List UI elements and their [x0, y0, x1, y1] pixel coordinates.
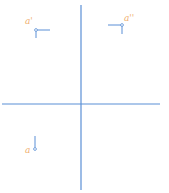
top-view-point: a [25, 136, 36, 155]
side-view-point: a'' [108, 13, 134, 34]
label-a: a [25, 145, 30, 155]
label-a-double-prime: a'' [124, 13, 134, 23]
projection-diagram: a' a'' a [0, 0, 169, 193]
front-view-point: a' [25, 16, 50, 38]
label-a-prime: a' [25, 16, 33, 26]
